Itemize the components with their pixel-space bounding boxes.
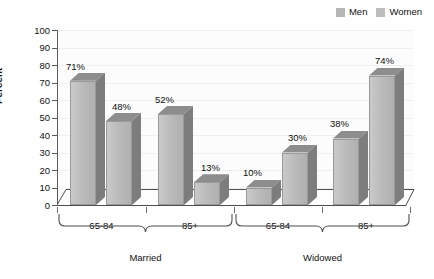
y-axis-tick: [52, 170, 57, 171]
y-axis-tick-label: 30: [0, 148, 50, 158]
y-axis-tick-label: 10: [0, 183, 50, 193]
y-axis-tick: [52, 153, 57, 154]
y-axis-tick: [52, 48, 57, 49]
y-axis-tick-label: 0: [0, 201, 50, 211]
bar-side-face: [184, 106, 193, 205]
bar-front-face: [333, 139, 359, 206]
category-axis-tick: [234, 207, 235, 213]
gridline: [57, 65, 413, 66]
bar-front-face: [70, 81, 96, 205]
bar-value-label: 71%: [66, 62, 85, 72]
y-axis-tick: [52, 30, 57, 31]
legend-swatch-icon: [376, 8, 385, 17]
bar-value-label: 48%: [112, 102, 131, 112]
y-axis-tick: [52, 205, 57, 206]
category-axis-tick: [146, 207, 147, 213]
bar-value-label: 74%: [375, 56, 394, 66]
gridline: [57, 83, 413, 84]
bar-widowed-65-84-men: [246, 188, 272, 206]
bar-value-label: 38%: [330, 119, 349, 129]
y-axis-tick: [52, 135, 57, 136]
category-axis-tick: [57, 207, 58, 213]
bar-married-65-84-men: [70, 81, 96, 205]
bar-value-label: 13%: [201, 163, 220, 173]
y-axis-tick-label: 20: [0, 166, 50, 176]
gridline: [57, 30, 413, 31]
bar-front-face: [282, 153, 308, 206]
chart-legend: Men Women: [336, 7, 422, 17]
category-axis-tick: [410, 207, 411, 213]
bar-front-face: [106, 121, 132, 205]
y-axis-tick-label: 80: [0, 61, 50, 71]
bar-married-85plus-women: [194, 182, 220, 205]
y-axis-tick-label: 100: [0, 26, 50, 36]
bar-chart: Men Women Percent 100 90 80 70 60 50 40 …: [0, 0, 434, 279]
bar-side-face: [96, 73, 105, 205]
y-axis-tick: [52, 65, 57, 66]
legend-label-men: Men: [349, 7, 367, 17]
bar-front-face: [246, 188, 272, 206]
bar-married-65-84-women: [106, 121, 132, 205]
y-axis-tick-label: 90: [0, 43, 50, 53]
group-label-married: Married: [57, 253, 234, 263]
bar-front-face: [194, 182, 220, 205]
y-axis-tick-label: 40: [0, 131, 50, 141]
group-brace-widowed: [234, 214, 411, 236]
bar-side-face: [132, 113, 141, 205]
y-axis-tick: [52, 100, 57, 101]
bar-front-face: [158, 114, 184, 205]
bar-front-face: [369, 76, 395, 206]
group-brace-married: [57, 214, 234, 236]
legend-label-women: Women: [389, 7, 422, 17]
y-axis-tick-label: 50: [0, 113, 50, 123]
y-axis-tick: [52, 118, 57, 119]
bar-married-85plus-men: [158, 114, 184, 205]
bar-widowed-85plus-men: [333, 139, 359, 206]
bar-widowed-65-84-women: [282, 153, 308, 206]
bar-side-face: [395, 68, 404, 206]
bar-value-label: 52%: [155, 95, 174, 105]
legend-swatch-icon: [336, 8, 345, 17]
y-axis-line: [57, 30, 58, 205]
bar-value-label: 10%: [243, 168, 262, 178]
bar-side-face: [359, 131, 368, 206]
group-label-widowed: Widowed: [234, 253, 411, 263]
legend-item-men: Men: [336, 7, 367, 17]
y-axis-tick: [52, 83, 57, 84]
bar-side-face: [308, 145, 317, 206]
y-axis-tick-label: 70: [0, 78, 50, 88]
y-axis-tick-label: 60: [0, 96, 50, 106]
bar-widowed-85plus-women: [369, 76, 395, 206]
bar-value-label: 30%: [288, 133, 307, 143]
category-axis-tick: [322, 207, 323, 213]
y-axis-tick: [52, 188, 57, 189]
gridline: [57, 48, 413, 49]
legend-item-women: Women: [376, 7, 422, 17]
gridline: [57, 100, 413, 101]
